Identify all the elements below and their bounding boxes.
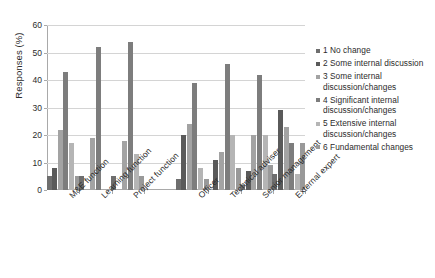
bar (63, 72, 68, 190)
y-tick-label: 30 (33, 103, 42, 113)
bar (176, 179, 181, 190)
legend-item: 5 Extensive internal discussion/changes (316, 118, 434, 139)
bar (69, 143, 74, 190)
y-tick-label: 50 (33, 48, 42, 58)
y-tick-label: 0 (37, 185, 42, 195)
legend-swatch-icon (316, 122, 320, 126)
legend-swatch-icon (316, 98, 320, 102)
bar (52, 168, 57, 190)
bar (219, 152, 224, 191)
bar-group (208, 25, 240, 190)
legend-item: 4 Significant internal discussion/change… (316, 95, 434, 116)
legend-label: 6 Fundamental changes (323, 142, 413, 153)
y-tick-label: 60 (33, 20, 42, 30)
legend-label: 2 Some internal discussion (323, 58, 423, 69)
bar (187, 124, 192, 190)
legend-item: 1 No change (316, 45, 434, 56)
legend-swatch-icon (316, 62, 320, 66)
bar (192, 83, 197, 190)
legend-item: 2 Some internal discussion (316, 58, 434, 69)
legend-swatch-icon (316, 49, 320, 53)
legend-label: 5 Extensive internal discussion/changes (323, 118, 434, 139)
bar (58, 130, 63, 191)
legend-item: 3 Some internal discussion/changes (316, 71, 434, 92)
legend-label: 3 Some internal discussion/changes (323, 71, 434, 92)
y-tick-label: 40 (33, 75, 42, 85)
y-axis-title: Responses (%) (13, 0, 24, 136)
bar (47, 176, 52, 190)
bar-group (47, 25, 79, 190)
y-tick-label: 20 (33, 130, 42, 140)
legend-item: 6 Fundamental changes (316, 142, 434, 153)
bar-chart: Responses (%) 0102030405060 M&E function… (0, 0, 435, 278)
legend-swatch-icon (316, 145, 320, 149)
y-tick-label: 10 (33, 158, 42, 168)
x-axis-labels: M&E functionLearning functionProject fun… (47, 193, 305, 278)
bar (230, 135, 235, 190)
y-tick-mark (44, 190, 47, 191)
chart-legend: 1 No change2 Some internal discussion3 S… (316, 45, 434, 155)
legend-label: 1 No change (323, 45, 371, 56)
legend-label: 4 Significant internal discussion/change… (323, 95, 434, 116)
bar (181, 135, 186, 190)
bar-group (176, 25, 208, 190)
bar (225, 64, 230, 191)
legend-swatch-icon (316, 75, 320, 79)
